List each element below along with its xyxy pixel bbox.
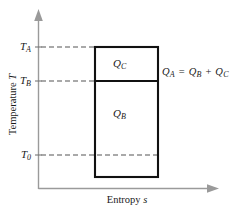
region-label-qc-sub: C [121, 62, 126, 71]
x-axis-title-symbol: s [143, 194, 147, 205]
region-label-qb: QB [113, 108, 126, 121]
tick-label-t0: T0 [6, 149, 31, 162]
tick-label-tb-sub: B [26, 79, 31, 88]
tick-label-t0-sub: 0 [27, 153, 31, 162]
diagram-canvas [0, 0, 230, 211]
x-axis-arrow-icon [207, 184, 219, 193]
process-box [95, 47, 158, 177]
y-axis-arrow-icon [34, 9, 43, 21]
x-axis-title: Entropy s [84, 194, 170, 205]
equation-term2-sub: C [223, 70, 229, 79]
tick-label-ta-sub: A [26, 45, 31, 54]
region-label-qb-sub: B [121, 112, 126, 121]
tick-label-tb: TB [6, 75, 31, 88]
equation-lhs-base: Q [162, 66, 170, 77]
equation-plus: + [202, 66, 216, 77]
equation-term1-sub: B [196, 70, 201, 79]
x-axis-title-text: Entropy [107, 194, 143, 205]
equation-term2-base: Q [215, 66, 223, 77]
tick-label-ta: TA [6, 41, 31, 54]
equation-equals: = [175, 66, 189, 77]
temperature-entropy-figure: Temperature T Entropy s TA TB T0 QC QB Q… [0, 0, 230, 211]
region-label-qb-base: Q [113, 107, 121, 119]
region-label-qc-base: Q [113, 57, 121, 69]
equation-annotation: QA = QB + QC [162, 67, 229, 79]
region-label-qc: QC [113, 58, 126, 71]
